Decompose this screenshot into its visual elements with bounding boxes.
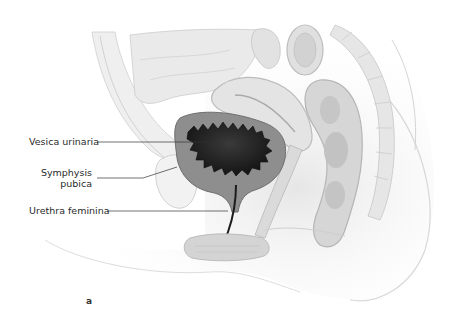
label-symphysis-line1: Symphysis — [40, 167, 92, 178]
label-urethra-feminina: Urethra feminina — [29, 205, 110, 216]
labia — [184, 234, 269, 261]
label-symphysis-line2: pubica — [40, 178, 92, 189]
panel-letter: a — [86, 296, 92, 306]
anatomical-illustration — [0, 0, 472, 328]
label-symphysis-pubica: Symphysis pubica — [40, 167, 92, 189]
label-vesica-urinaria: Vesica urinaria — [29, 136, 99, 147]
